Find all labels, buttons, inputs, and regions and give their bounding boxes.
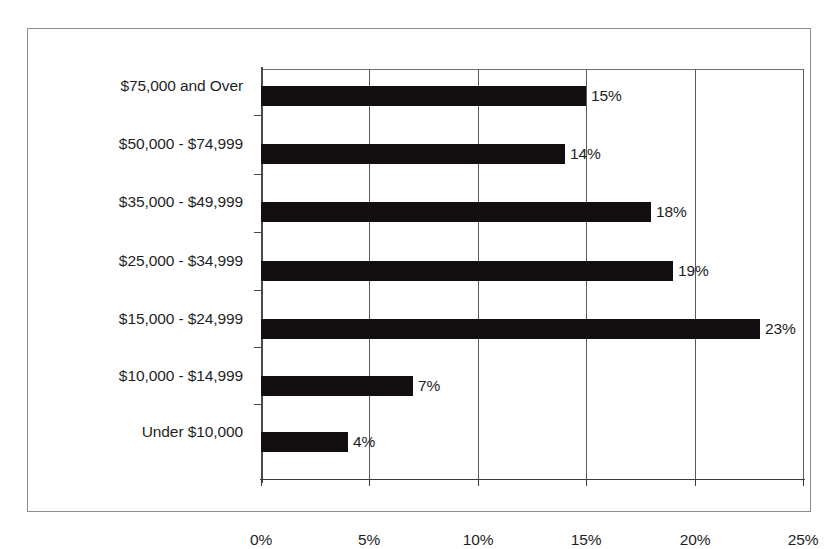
bar xyxy=(261,432,348,452)
bar-data-label: 19% xyxy=(678,261,709,281)
x-axis-line xyxy=(260,479,805,480)
y-axis-tick xyxy=(254,404,262,405)
x-axis-tick xyxy=(695,479,696,486)
category-label: $25,000 - $34,999 xyxy=(43,251,243,271)
bar-data-label: 7% xyxy=(418,376,440,396)
x-axis-tick xyxy=(369,479,370,486)
bar-data-label: 14% xyxy=(570,144,601,164)
x-axis-tick-label: 10% xyxy=(463,531,494,549)
chart-outer-border: $75,000 and Over $50,000 - $74,999 $35,0… xyxy=(27,28,811,512)
category-axis-labels: $75,000 and Over $50,000 - $74,999 $35,0… xyxy=(43,69,243,479)
plot-area: 15% 14% 18% 19% 23% 7% 4% 0% 5% 10% 15% … xyxy=(261,69,803,479)
category-label: $50,000 - $74,999 xyxy=(43,134,243,154)
bar xyxy=(261,144,565,164)
x-axis-tick-label: 20% xyxy=(680,531,711,549)
x-axis-tick xyxy=(803,479,804,486)
x-axis-tick xyxy=(261,479,262,486)
x-axis-tick-label: 25% xyxy=(788,531,819,549)
plot-top-border xyxy=(261,69,804,70)
category-label: Under $10,000 xyxy=(43,422,243,442)
category-label: $35,000 - $49,999 xyxy=(43,192,243,212)
y-axis-tick xyxy=(254,290,262,291)
category-label: $10,000 - $14,999 xyxy=(43,366,243,386)
bar-data-label: 23% xyxy=(765,319,796,339)
y-axis-tick xyxy=(254,347,262,348)
x-axis-tick-label: 5% xyxy=(358,531,380,549)
bar-data-label: 18% xyxy=(656,202,687,222)
bar xyxy=(261,202,651,222)
category-label: $15,000 - $24,999 xyxy=(43,309,243,329)
category-label: $75,000 and Over xyxy=(43,76,243,96)
bar xyxy=(261,376,413,396)
bar xyxy=(261,86,586,106)
x-axis-tick-label: 0% xyxy=(250,531,272,549)
bar xyxy=(261,261,673,281)
y-axis-tick xyxy=(254,115,262,116)
y-axis-tick xyxy=(254,232,262,233)
x-axis-tick xyxy=(478,479,479,486)
bar xyxy=(261,319,760,339)
gridline-25-percent xyxy=(803,69,804,479)
bar-data-label: 4% xyxy=(353,432,375,452)
y-axis-tick xyxy=(254,174,262,175)
x-axis-tick-label: 15% xyxy=(571,531,602,549)
x-axis-tick xyxy=(586,479,587,486)
bar-data-label: 15% xyxy=(591,86,622,106)
